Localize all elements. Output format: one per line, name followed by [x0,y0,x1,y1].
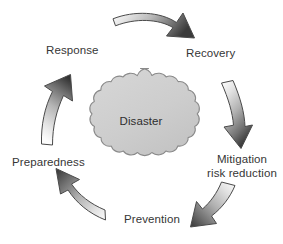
arrow-bottom-left-body [56,169,106,221]
arrow-bottom-right-body [191,182,236,227]
arrow-recovery-to-mitigation [222,81,253,149]
arrow-top-body [113,13,195,38]
disaster-cycle-diagram: Response Recovery Mitigation risk reduct… [0,0,283,244]
label-disaster: Disaster [111,115,171,129]
label-mitigation-line2: risk reduction [204,167,280,181]
arrow-response-to-recovery [113,13,195,38]
label-mitigation-risk-reduction: Mitigation risk reduction [204,153,280,180]
label-mitigation-line1: Mitigation [204,153,280,167]
arrow-right-body [222,81,253,149]
label-preparedness: Preparedness [12,156,85,170]
label-response: Response [46,44,99,58]
cloud-shape [90,68,200,155]
disaster-cloud [90,68,200,155]
arrow-preparedness-to-response [41,75,72,146]
arrow-left-body [41,75,72,146]
arrow-mitigation-to-prevention [191,182,236,227]
label-prevention: Prevention [124,213,180,227]
label-recovery: Recovery [186,47,235,61]
arrow-prevention-to-preparedness [56,169,106,221]
